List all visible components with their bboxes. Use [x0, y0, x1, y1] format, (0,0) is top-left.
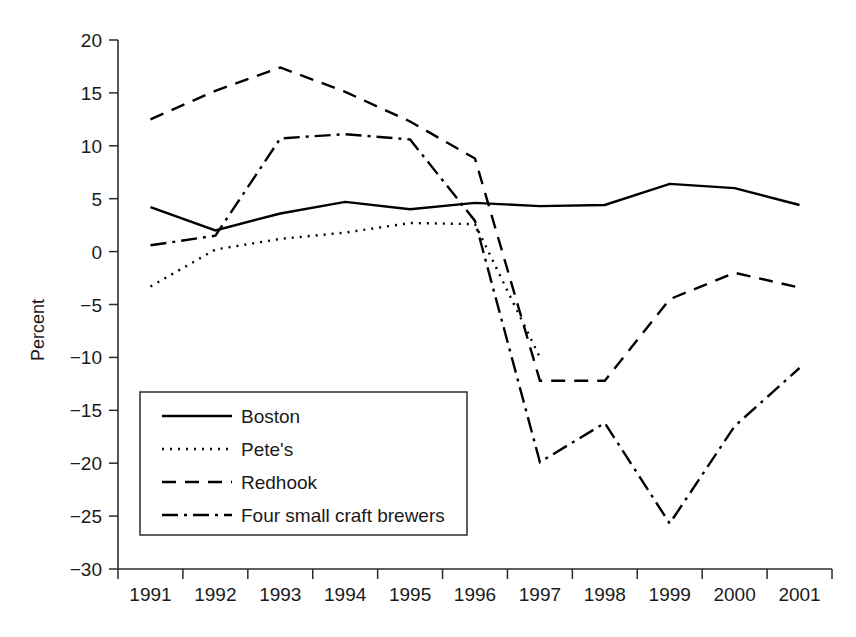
y-axis: 20151050−5−10−15−20−25−30: [70, 30, 118, 580]
x-tick-label: 1993: [259, 584, 301, 605]
chart-legend: BostonPete'sRedhookFour small craft brew…: [140, 392, 467, 535]
y-tick-label: 15: [81, 83, 102, 104]
x-tick-label: 1996: [454, 584, 496, 605]
y-tick-label: −15: [70, 400, 102, 421]
y-tick-label: −5: [80, 295, 102, 316]
chart-container: 20151050−5−10−15−20−25−30 19911992199319…: [0, 0, 856, 637]
line-chart: 20151050−5−10−15−20−25−30 19911992199319…: [0, 0, 856, 637]
y-tick-label: 5: [91, 189, 102, 210]
y-tick-label: 20: [81, 30, 102, 51]
x-axis: 1991199219931994199519961997199819992000…: [118, 569, 832, 605]
x-tick-label: 1997: [519, 584, 561, 605]
y-tick-label: 10: [81, 136, 102, 157]
x-tick-label: 1991: [129, 584, 171, 605]
y-axis-title: Percent: [28, 299, 48, 361]
x-tick-label: 2000: [713, 584, 755, 605]
legend-label: Pete's: [241, 439, 293, 460]
legend-label: Redhook: [241, 472, 318, 493]
y-tick-label: −20: [70, 453, 102, 474]
x-tick-label: 1992: [194, 584, 236, 605]
x-tick-label: 1995: [389, 584, 431, 605]
legend-label: Four small craft brewers: [241, 505, 445, 526]
legend-label: Boston: [241, 406, 300, 427]
y-tick-label: 0: [91, 242, 102, 263]
x-tick-label: 1998: [584, 584, 626, 605]
x-tick-label: 1999: [649, 584, 691, 605]
y-tick-label: −30: [70, 559, 102, 580]
x-tick-label: 2001: [778, 584, 820, 605]
x-tick-label: 1994: [324, 584, 367, 605]
y-tick-label: −25: [70, 506, 102, 527]
y-tick-label: −10: [70, 347, 102, 368]
series-line-four-small-craft-brewers: [151, 134, 800, 523]
